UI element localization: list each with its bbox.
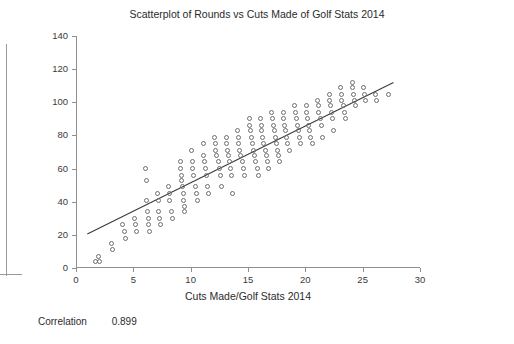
correlation-block: Correlation 0.899 <box>38 316 137 327</box>
scatter-point <box>195 198 200 203</box>
x-tick-label: 10 <box>176 274 206 285</box>
y-tick-label: 100 <box>38 97 68 107</box>
x-tick-mark <box>248 268 249 272</box>
scatter-point <box>297 135 302 140</box>
scatter-point <box>224 135 229 140</box>
scatter-point <box>316 103 321 108</box>
x-tick-mark <box>191 268 192 272</box>
scatter-point <box>373 92 378 97</box>
scatter-point <box>328 103 333 108</box>
scatter-point <box>351 92 356 97</box>
scatter-point <box>212 135 217 140</box>
scatter-point <box>260 135 265 140</box>
scatter-point <box>155 191 160 196</box>
chart-title: Scatterplot of Rounds vs Cuts Made of Go… <box>0 8 514 20</box>
y-tick-label: 20 <box>38 230 68 240</box>
scatter-point <box>157 216 162 221</box>
y-tick-mark <box>72 202 76 203</box>
scatter-point <box>189 148 194 153</box>
scatter-point <box>287 148 292 153</box>
scatter-point <box>201 141 206 146</box>
y-tick-label: 0 <box>38 263 68 273</box>
scatter-point <box>156 198 161 203</box>
scatter-point <box>144 178 149 183</box>
scatter-point <box>249 135 254 140</box>
scatter-point <box>296 128 301 133</box>
plot-area <box>76 36 420 268</box>
scatter-point <box>255 166 260 171</box>
scatter-point <box>226 153 231 158</box>
scatter-point <box>218 173 223 178</box>
y-tick-label: 140 <box>38 31 68 41</box>
x-tick-mark <box>420 268 421 272</box>
scatter-point <box>329 110 334 115</box>
x-tick-mark <box>363 268 364 272</box>
scatter-point <box>341 103 346 108</box>
scatter-point <box>167 198 172 203</box>
x-axis-title: Cuts Made/Golf Stats 2014 <box>76 290 420 302</box>
scatter-point <box>284 135 289 140</box>
y-tick-label: 60 <box>38 164 68 174</box>
scatter-point <box>167 191 172 196</box>
scatter-point <box>204 173 209 178</box>
scatter-point <box>193 184 198 189</box>
scatter-point <box>304 103 309 108</box>
scatter-point <box>147 229 152 234</box>
scatter-point <box>236 135 241 140</box>
scatter-point <box>386 92 391 97</box>
scatter-point <box>242 173 247 178</box>
scatter-point <box>294 116 299 121</box>
scatter-point <box>217 166 222 171</box>
y-tick-mark <box>72 102 76 103</box>
scatter-point <box>339 92 344 97</box>
chart-page: Scatterplot of Rounds vs Cuts Made of Go… <box>0 0 514 344</box>
scatter-point <box>293 110 298 115</box>
x-tick-label: 20 <box>290 274 320 285</box>
y-tick-mark <box>72 235 76 236</box>
correlation-label: Correlation <box>38 316 87 327</box>
y-tick-mark <box>72 69 76 70</box>
scatter-point <box>123 236 128 241</box>
scatter-point <box>194 191 199 196</box>
scatter-point <box>248 128 253 133</box>
y-tick-label: 80 <box>38 130 68 140</box>
y-tick-label: 120 <box>38 64 68 74</box>
correlation-value: 0.899 <box>112 316 137 327</box>
scatter-point <box>374 98 379 103</box>
x-tick-mark <box>76 268 77 272</box>
scatter-point <box>170 216 175 221</box>
scatter-point <box>169 209 174 214</box>
scatter-point <box>319 123 324 128</box>
x-tick-mark <box>133 268 134 272</box>
x-tick-label: 5 <box>118 274 148 285</box>
scatter-point <box>273 135 278 140</box>
scatter-point <box>362 92 367 97</box>
scatter-point <box>122 229 127 234</box>
page-edge-horizontal-line <box>0 274 22 275</box>
y-tick-mark <box>72 169 76 170</box>
scatter-point <box>256 173 261 178</box>
trendline <box>77 36 421 268</box>
y-tick-mark <box>72 36 76 37</box>
scatter-point <box>213 141 218 146</box>
scatter-point <box>310 141 315 146</box>
scatter-point <box>235 128 240 133</box>
scatter-point <box>342 110 347 115</box>
scatter-point <box>272 128 277 133</box>
scatter-point <box>327 92 332 97</box>
scatter-point <box>318 116 323 121</box>
scatter-point <box>320 135 325 140</box>
x-tick-mark <box>305 268 306 272</box>
y-tick-mark <box>72 135 76 136</box>
x-tick-label: 25 <box>348 274 378 285</box>
scatter-point <box>181 198 186 203</box>
y-tick-label: 40 <box>38 197 68 207</box>
x-tick-label: 0 <box>61 274 91 285</box>
scatter-point <box>241 166 246 171</box>
scatter-point <box>109 241 114 246</box>
page-edge-vertical-line <box>6 44 7 276</box>
scatter-point <box>247 116 252 121</box>
scatter-point <box>203 166 208 171</box>
x-tick-label: 15 <box>233 274 263 285</box>
scatter-point <box>132 216 137 221</box>
